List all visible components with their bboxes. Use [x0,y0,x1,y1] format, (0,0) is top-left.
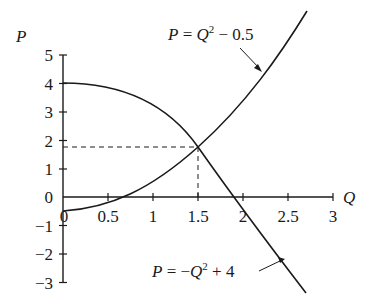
supply-arrowhead [254,64,262,72]
y-tick-labels: 5 4 3 2 1 0 −1 −2 −3 [35,46,54,293]
svg-text:5: 5 [45,46,54,65]
x-tick-labels: 0 0.5 1 1.5 2 2.5 3 [60,207,338,226]
svg-text:1.5: 1.5 [187,207,208,226]
y-axis-label: P [15,27,26,46]
demand-curve-label: P = −Q2 + 4 [151,260,235,281]
svg-text:3: 3 [329,207,338,226]
svg-text:1: 1 [45,160,54,179]
svg-text:2: 2 [45,132,54,151]
supply-curve-label: P = Q2 − 0.5 [167,23,254,44]
svg-text:−1: −1 [35,217,53,236]
svg-text:2.5: 2.5 [277,207,298,226]
svg-text:4: 4 [45,75,54,94]
x-axis-label: Q [343,188,355,207]
intersection-guides [63,147,198,197]
svg-text:0.5: 0.5 [97,207,118,226]
svg-text:0: 0 [45,188,54,207]
svg-text:3: 3 [45,103,54,122]
svg-text:−2: −2 [35,245,53,264]
svg-text:−3: −3 [35,274,53,293]
svg-text:0: 0 [60,207,69,226]
svg-text:1: 1 [149,207,158,226]
chart: 5 4 3 2 1 0 −1 −2 −3 0 0.5 1 1.5 2 2.5 3… [0,0,370,306]
demand-label-arrow [259,260,282,271]
